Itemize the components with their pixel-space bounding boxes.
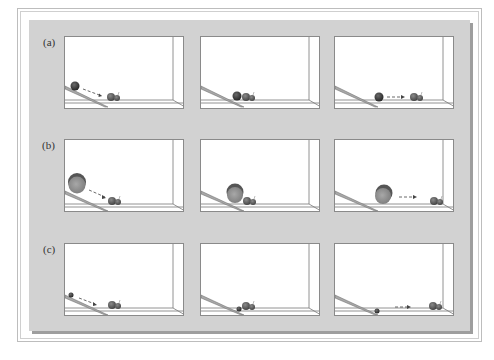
rolling-ball xyxy=(233,92,242,101)
target-ball-small xyxy=(115,303,121,309)
rolling-ball xyxy=(227,187,243,203)
ramp xyxy=(65,86,108,107)
target-ball-large xyxy=(108,197,116,205)
panel-c3 xyxy=(334,243,454,316)
panel-b3 xyxy=(334,139,454,212)
rolling-ball xyxy=(237,307,242,312)
target-ball-small xyxy=(249,304,255,310)
target-ball-large xyxy=(107,93,115,101)
row-label-b: (b) xyxy=(42,139,55,151)
rolling-ball xyxy=(375,93,384,102)
target-ball-small xyxy=(417,95,423,101)
target-ball-large xyxy=(108,301,116,309)
row-label-c: (c) xyxy=(43,243,55,255)
ramp xyxy=(335,86,378,107)
panel-c2 xyxy=(200,243,320,316)
ramp xyxy=(201,295,244,315)
panel-c1 xyxy=(64,243,184,316)
target-ball-large xyxy=(242,302,250,310)
rolling-ball xyxy=(375,309,380,314)
rolling-ball xyxy=(71,82,80,91)
rolling-ball xyxy=(69,293,74,298)
target-ball-large xyxy=(429,302,437,310)
target-ball-small xyxy=(436,304,442,310)
target-ball-large xyxy=(410,93,418,101)
rolling-ball xyxy=(375,188,391,204)
target-ball-small xyxy=(249,95,255,101)
ramp xyxy=(335,191,378,211)
rolling-ball xyxy=(69,177,86,194)
target-ball-small xyxy=(114,95,120,101)
panel-b2 xyxy=(200,139,320,212)
panel-b1 xyxy=(64,139,184,212)
row-label-a: (a) xyxy=(43,36,55,48)
target-ball-large xyxy=(242,93,250,101)
target-ball-large xyxy=(243,197,251,205)
ramp xyxy=(335,295,378,315)
panel-a3 xyxy=(334,36,454,109)
panel-a1 xyxy=(64,36,184,109)
target-ball-small xyxy=(250,199,256,205)
target-ball-large xyxy=(430,197,438,205)
ramp xyxy=(65,295,108,315)
target-ball-small xyxy=(437,199,443,205)
panel-a2 xyxy=(200,36,320,109)
ramp xyxy=(65,191,108,211)
target-ball-small xyxy=(115,199,121,205)
